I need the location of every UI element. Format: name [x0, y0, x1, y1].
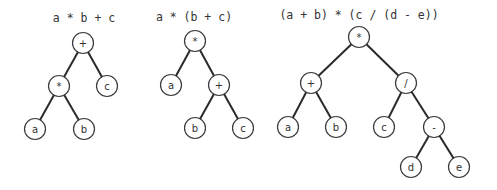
operand-node: e: [449, 157, 470, 178]
operand-node: d: [401, 157, 422, 178]
operand-node: b: [74, 119, 95, 140]
operand-node: a: [25, 119, 46, 140]
node-label: a: [285, 122, 291, 133]
node-label: e: [456, 162, 462, 173]
node-label: d: [408, 162, 414, 173]
expression-tree-2: a * (b + c)*a+bc: [156, 10, 254, 139]
operand-node: c: [97, 76, 118, 97]
operator-node: +: [209, 75, 230, 96]
node-label: -: [432, 122, 436, 133]
node-label: c: [240, 123, 246, 134]
node-label: b: [81, 124, 87, 135]
node-label: +: [215, 80, 223, 91]
operand-node: a: [161, 75, 182, 96]
node-label: c: [381, 122, 387, 133]
node-label: +: [79, 38, 87, 49]
operand-node: c: [233, 118, 254, 139]
operand-node: b: [326, 117, 347, 138]
expression-tree-3: (a + b) * (c / (d - e))*+/abc-de: [278, 8, 470, 178]
expression-caption: a * b + c: [53, 11, 115, 25]
operator-node: *: [49, 76, 70, 97]
node-label: b: [192, 123, 198, 134]
node-label: a: [32, 124, 38, 135]
operand-node: a: [278, 117, 299, 138]
expression-tree-1: a * b + c+*cab: [25, 11, 118, 140]
node-label: b: [333, 122, 339, 133]
expression-tree-diagram: a * b + c+*caba * (b + c)*a+bc(a + b) * …: [0, 0, 497, 190]
node-label: c: [104, 81, 110, 92]
expression-caption: (a + b) * (c / (d - e)): [279, 8, 438, 22]
node-label: *: [357, 32, 362, 43]
operand-node: b: [185, 118, 206, 139]
expression-caption: a * (b + c): [156, 10, 232, 24]
operand-node: c: [374, 117, 395, 138]
node-label: *: [193, 36, 198, 47]
node-label: a: [168, 80, 174, 91]
operator-node: /: [396, 73, 417, 94]
operator-node: +: [301, 73, 322, 94]
operator-node: +: [73, 33, 94, 54]
node-label: +: [307, 78, 315, 89]
node-label: *: [57, 81, 62, 92]
operator-node: *: [349, 27, 370, 48]
operator-node: -: [424, 117, 445, 138]
operator-node: *: [185, 31, 206, 52]
